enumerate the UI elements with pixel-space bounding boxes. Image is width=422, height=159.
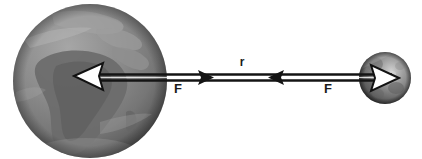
- earth-moon-gravity-diagram: F F r: [0, 0, 422, 159]
- physics-diagram-canvas: F F r: [0, 0, 422, 159]
- force-label-right: F: [324, 81, 332, 96]
- force-vector-shafts: [84, 75, 392, 81]
- force-label-left: F: [174, 81, 182, 96]
- separation-label-r: r: [240, 55, 245, 69]
